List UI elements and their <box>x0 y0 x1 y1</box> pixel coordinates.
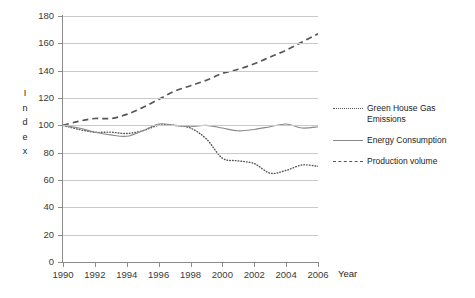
gridline <box>63 98 318 99</box>
solid-line-key-icon <box>333 135 363 146</box>
y-axis-tick-label: 180 <box>28 11 54 21</box>
x-axis-tick-mark <box>127 263 128 267</box>
y-axis-tick-mark <box>58 98 63 99</box>
y-axis-tick-mark <box>58 153 63 154</box>
x-axis-tick-mark <box>159 263 160 267</box>
x-axis-tick-mark <box>318 263 319 267</box>
y-axis-title-letter: e <box>22 130 27 145</box>
y-axis-tick-label: 80 <box>28 148 54 158</box>
x-axis-tick-label: 2000 <box>207 270 237 280</box>
y-axis-tick-label: 140 <box>28 66 54 76</box>
x-axis-tick-label: 2004 <box>271 270 301 280</box>
y-axis-tick-mark <box>58 125 63 126</box>
x-axis-tick-label: 2002 <box>239 270 269 280</box>
x-axis-tick-label: 1992 <box>80 270 110 280</box>
y-axis-tick-label: 0 <box>28 257 54 267</box>
gridline <box>63 153 318 154</box>
dashed-line-key-icon <box>333 156 363 167</box>
gridline <box>63 43 318 44</box>
gridline <box>63 207 318 208</box>
chart-figure: I n d e x Year 0204060801001201401601801… <box>0 0 475 298</box>
x-axis-tick-mark <box>222 263 223 267</box>
gridline <box>63 235 318 236</box>
x-axis-tick-mark <box>191 263 192 267</box>
data-series-line <box>63 125 318 174</box>
x-axis-title: Year <box>338 268 357 279</box>
plot-area <box>63 16 318 262</box>
y-axis-tick-mark <box>58 207 63 208</box>
y-axis-tick-label: 120 <box>28 93 54 103</box>
gridline <box>63 71 318 72</box>
y-axis-tick-mark <box>58 235 63 236</box>
y-axis-tick-mark <box>58 71 63 72</box>
gridline <box>63 125 318 126</box>
legend-item-production-volume: Production volume <box>333 156 473 167</box>
legend-item-label: Production volume <box>367 156 437 167</box>
x-axis-tick-label: 1990 <box>48 270 78 280</box>
y-axis-line <box>62 15 63 263</box>
data-series-line <box>63 34 318 126</box>
x-axis-tick-label: 1996 <box>144 270 174 280</box>
x-axis-tick-label: 1998 <box>176 270 206 280</box>
y-axis-tick-label: 60 <box>28 175 54 185</box>
x-axis-tick-label: 2006 <box>303 270 333 280</box>
plot-svg <box>63 16 318 262</box>
y-axis-tick-label: 20 <box>28 230 54 240</box>
y-axis-tick-label: 40 <box>28 202 54 212</box>
y-axis-tick-mark <box>58 180 63 181</box>
y-axis-title-letter: n <box>22 101 27 116</box>
dotted-line-key-icon <box>333 103 363 114</box>
y-axis-tick-label: 160 <box>28 38 54 48</box>
x-axis-tick-mark <box>95 263 96 267</box>
x-axis-tick-mark <box>286 263 287 267</box>
gridline <box>63 16 318 17</box>
y-axis-tick-label: 100 <box>28 120 54 130</box>
y-axis-title-letter: x <box>23 144 28 159</box>
x-axis-tick-label: 1994 <box>112 270 142 280</box>
legend-item-label: Green House Gas Emissions <box>367 103 473 125</box>
legend-item-green-house-gas-emissions: Green House Gas Emissions <box>333 103 473 125</box>
x-axis-tick-mark <box>63 263 64 267</box>
legend-item-energy-consumption: Energy Consumption <box>333 135 473 146</box>
y-axis-tick-mark <box>58 43 63 44</box>
y-axis-title-letter: d <box>22 115 27 130</box>
y-axis-title-letter: I <box>24 86 27 101</box>
x-axis-tick-mark <box>254 263 255 267</box>
legend-item-label: Energy Consumption <box>367 135 446 146</box>
y-axis-tick-mark <box>58 16 63 17</box>
gridline <box>63 180 318 181</box>
chart-legend: Green House Gas Emissions Energy Consump… <box>333 103 473 177</box>
